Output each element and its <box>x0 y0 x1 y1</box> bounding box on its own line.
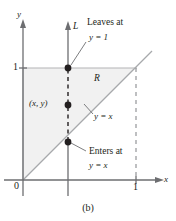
x-axis-arrowhead <box>155 177 164 183</box>
region-label-R: R <box>94 74 100 84</box>
leader-line-enters <box>71 143 86 151</box>
x-axis-tick-label-1: 1 <box>133 182 138 192</box>
y-axis-arrowhead <box>20 19 26 28</box>
line-L-label: L <box>73 22 78 32</box>
diagonal-equation-label: y = x <box>94 112 113 121</box>
annotation-enters-equation: y = x <box>89 161 108 170</box>
annotation-leaves-title: Leaves at <box>87 18 123 28</box>
annotation-enters-title: Enters at <box>89 147 123 157</box>
origin-label: 0 <box>14 181 19 191</box>
y-axis-label: y <box>17 10 21 19</box>
x-axis-label: x <box>164 175 168 184</box>
figure-container: y x L 1 1 0 R (x, y) y = x Leaves at y =… <box>0 0 176 221</box>
line-L-arrowhead <box>65 21 71 30</box>
point-coordinate-label: (x, y) <box>29 99 47 108</box>
diagram-canvas <box>0 0 176 221</box>
leader-line-leaves <box>71 42 86 65</box>
exit-point-dot <box>65 65 72 72</box>
figure-caption: (b) <box>0 202 176 213</box>
annotation-leaves-equation: y = 1 <box>89 33 108 42</box>
y-axis-tick-label-1: 1 <box>13 62 18 72</box>
interior-point-dot <box>65 102 72 109</box>
entry-point-dot <box>65 139 72 146</box>
